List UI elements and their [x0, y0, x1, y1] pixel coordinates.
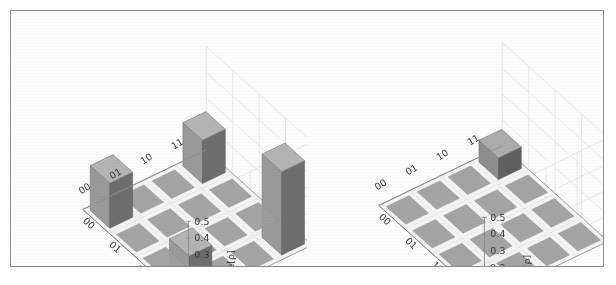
svg-text:10: 10 [138, 151, 154, 167]
svg-text:0.3: 0.3 [490, 245, 505, 256]
figure-frame: 00011011111001000.00.10.20.30.40.5Re[ρ] … [10, 10, 604, 267]
svg-text:10: 10 [434, 147, 450, 163]
panel-real-part: 00011011111001000.00.10.20.30.40.5Re[ρ] [11, 11, 307, 266]
bar3d-plot-real: 00011011111001000.00.10.20.30.40.5Re[ρ] [11, 11, 307, 266]
bar3d-svg-real: 00011011111001000.00.10.20.30.40.5Re[ρ] [11, 11, 307, 266]
svg-text:Re[ρ]: Re[ρ] [225, 250, 236, 266]
panel-imaginary-part: 0001101111100100-0.10.00.10.20.30.40.5Im… [307, 11, 603, 266]
svg-text:00: 00 [372, 177, 388, 193]
bar3d-plot-imaginary: 0001101111100100-0.10.00.10.20.30.40.5Im… [307, 11, 603, 266]
svg-text:0.4: 0.4 [194, 232, 209, 243]
svg-text:0.5: 0.5 [490, 212, 505, 223]
svg-text:0.2: 0.2 [490, 262, 505, 266]
svg-text:01: 01 [403, 162, 419, 178]
svg-text:0.5: 0.5 [194, 216, 209, 227]
svg-text:0.3: 0.3 [194, 249, 209, 260]
svg-text:0.4: 0.4 [490, 228, 505, 239]
bar3d-svg-imaginary: 0001101111100100-0.10.00.10.20.30.40.5Im… [307, 11, 603, 266]
svg-text:Im[ρ]: Im[ρ] [521, 255, 532, 266]
